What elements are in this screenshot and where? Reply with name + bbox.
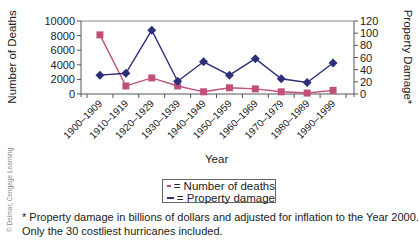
left-axis-title: Number of Deaths bbox=[6, 10, 18, 104]
deaths-marker bbox=[96, 31, 103, 38]
deaths-marker bbox=[304, 90, 311, 97]
right-tick-label: 20 bbox=[360, 76, 372, 88]
hurricane-chart: 0200040006000800010000 020406080100120 1… bbox=[0, 0, 416, 175]
deaths-marker bbox=[122, 82, 129, 89]
right-tick-label: 80 bbox=[360, 39, 372, 51]
deaths-marker bbox=[330, 87, 337, 94]
right-tick-label: 40 bbox=[360, 64, 372, 76]
left-tick-label: 6000 bbox=[51, 44, 75, 56]
legend-item-property: = Property damage bbox=[167, 192, 275, 204]
left-tick-label: 4000 bbox=[51, 59, 75, 71]
deaths-marker bbox=[200, 88, 207, 95]
left-tick-label: 0 bbox=[69, 88, 75, 100]
right-tick-label: 100 bbox=[360, 27, 378, 39]
property-damage-marker bbox=[95, 71, 104, 80]
left-tick-label: 8000 bbox=[51, 30, 75, 42]
deaths-marker bbox=[148, 74, 155, 81]
right-tick-label: 0 bbox=[360, 88, 366, 100]
footnote-line-2: Only the 30 costliest hurricanes include… bbox=[22, 224, 419, 238]
data-series bbox=[95, 26, 337, 97]
deaths-line bbox=[100, 35, 333, 93]
footnote-line-1: * Property damage in billions of dollars… bbox=[22, 210, 419, 224]
property-damage-marker bbox=[121, 69, 130, 78]
property-damage-marker bbox=[225, 71, 234, 80]
footnote: * Property damage in billions of dollars… bbox=[22, 210, 419, 238]
legend-property-label: = Property damage bbox=[177, 192, 275, 204]
x-axis: 1900–19091910–19191920–19291930–19391940… bbox=[61, 94, 346, 141]
deaths-marker bbox=[278, 88, 285, 95]
legend: = Number of deaths = Property damage bbox=[162, 179, 276, 203]
copyright-credit: © Delmar, Cengage Learning bbox=[6, 148, 13, 232]
property-damage-marker bbox=[147, 26, 156, 35]
legend-deaths-label: = Number of deaths bbox=[174, 180, 275, 192]
property-damage-line bbox=[100, 30, 333, 82]
deaths-marker bbox=[252, 85, 259, 92]
right-tick-label: 60 bbox=[360, 52, 372, 64]
left-axis: 0200040006000800010000 bbox=[44, 15, 81, 100]
right-tick-label: 120 bbox=[360, 15, 378, 27]
left-tick-label: 2000 bbox=[51, 73, 75, 85]
property-line-swatch bbox=[167, 197, 174, 199]
left-tick-label: 10000 bbox=[44, 15, 75, 27]
right-axis: 020406080100120 bbox=[354, 15, 378, 100]
plot-frame bbox=[81, 21, 354, 97]
deaths-marker bbox=[226, 84, 233, 91]
x-axis-title: Year bbox=[205, 153, 228, 165]
deaths-line-swatch bbox=[167, 185, 171, 187]
right-axis-title: Property Damage* bbox=[402, 10, 414, 105]
legend-item-deaths: = Number of deaths bbox=[167, 180, 275, 192]
